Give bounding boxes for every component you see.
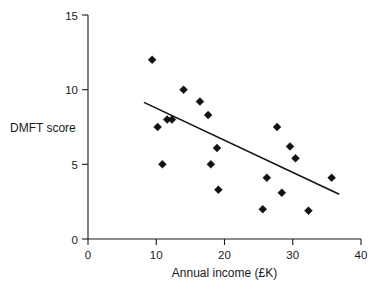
x-tick-label-20: 20: [218, 249, 231, 261]
scatter-chart: 0 5 10 15 0 10 20 30 40 DMFT score Annua…: [0, 0, 379, 283]
data-point-marker: [204, 111, 212, 119]
data-point-marker: [291, 154, 299, 162]
y-tick-label-0: 0: [72, 234, 78, 246]
x-axis-title: Annual income (£K): [172, 266, 277, 280]
data-point-marker: [328, 174, 336, 182]
y-axis-title: DMFT score: [10, 121, 76, 135]
x-axis-ticks: 0 10 20 30 40: [85, 239, 368, 261]
data-point-marker: [196, 98, 204, 106]
x-tick-label-10: 10: [150, 249, 163, 261]
regression-line: [144, 102, 339, 194]
data-point-marker: [259, 205, 267, 213]
y-tick-label-10: 10: [65, 84, 78, 96]
y-tick-label-15: 15: [65, 10, 78, 22]
data-point-marker: [214, 186, 222, 194]
data-point-marker: [273, 123, 281, 131]
data-point-marker: [158, 160, 166, 168]
y-tick-label-5: 5: [72, 159, 78, 171]
chart-canvas: 0 5 10 15 0 10 20 30 40 DMFT score Annua…: [0, 0, 379, 283]
data-point-marker: [213, 144, 221, 152]
data-point-marker: [207, 160, 215, 168]
data-point-marker: [278, 189, 286, 197]
data-point-marker: [180, 86, 188, 94]
x-tick-label-40: 40: [355, 249, 368, 261]
x-tick-label-0: 0: [85, 249, 91, 261]
data-point-marker: [304, 207, 312, 215]
data-point-marker: [154, 123, 162, 131]
data-point-group: [148, 56, 335, 215]
data-point-marker: [148, 56, 156, 64]
data-point-marker: [286, 142, 294, 150]
data-point-marker: [263, 174, 271, 182]
x-tick-label-30: 30: [286, 249, 299, 261]
